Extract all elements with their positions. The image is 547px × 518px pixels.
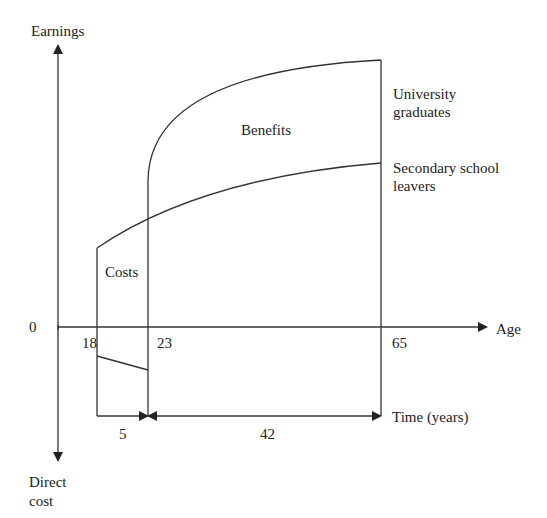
benefits-label: Benefits [241, 121, 291, 140]
tick-65: 65 [392, 334, 407, 353]
time-years-label: Time (years) [392, 408, 469, 427]
origin-label: 0 [29, 318, 37, 337]
university-label-2: graduates [393, 103, 450, 122]
study-years-label: 5 [119, 425, 127, 444]
university-label-1: University [393, 85, 456, 104]
age-label: Age [496, 320, 521, 339]
direct-cost-line [97, 356, 148, 370]
direct-cost-label-2: cost [29, 492, 53, 511]
tick-23: 23 [157, 334, 172, 353]
secondary-earnings-curve [97, 163, 381, 248]
secondary-label-1: Secondary school [393, 159, 499, 178]
costs-label: Costs [105, 263, 138, 282]
university-earnings-curve [148, 60, 381, 180]
earnings-label: Earnings [31, 22, 84, 41]
work-years-label: 42 [260, 425, 275, 444]
direct-cost-label-1: Direct [29, 473, 66, 492]
tick-18: 18 [82, 334, 97, 353]
secondary-label-2: leavers [393, 177, 435, 196]
